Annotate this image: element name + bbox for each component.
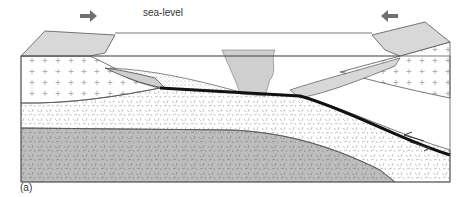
left-mountain xyxy=(21,31,115,56)
left-convergence-arrow xyxy=(80,10,97,22)
cross-section-diagram xyxy=(0,0,467,197)
sea-level-label: sea-level xyxy=(143,7,183,18)
right-convergence-arrow xyxy=(381,10,398,22)
figure-label: (a) xyxy=(20,182,32,193)
